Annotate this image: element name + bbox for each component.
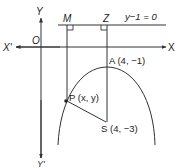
x-neg-axis-label: X' <box>2 42 13 53</box>
right-angle-mark-z <box>101 25 107 30</box>
point-m-label: M <box>63 13 72 24</box>
x-axis-label: X <box>168 42 175 53</box>
point-p-label: P (x, y) <box>69 92 99 103</box>
point-z-label: Z <box>102 13 110 24</box>
point-a-label: A (4, −1) <box>109 55 145 66</box>
point-p-dot <box>64 99 68 103</box>
origin-label: O <box>32 35 40 46</box>
point-s-label: S (4, −3) <box>101 123 138 134</box>
ps-segment <box>67 101 106 122</box>
parabola-diagram: Y Y' X' X O M Z y−1 = 0 A (4, −1) P (x, … <box>0 0 177 168</box>
directrix-label: y−1 = 0 <box>124 11 157 22</box>
right-angle-mark-m <box>67 25 73 30</box>
y-axis-label: Y <box>36 6 44 17</box>
y-neg-axis-label: Y' <box>37 159 45 168</box>
